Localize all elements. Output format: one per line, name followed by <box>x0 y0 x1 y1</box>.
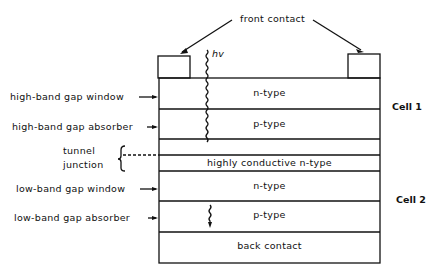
layer-p-type-top: p-type <box>159 118 380 129</box>
label-high-window: high-band gap window <box>10 91 124 102</box>
photon-label: hv <box>212 48 224 59</box>
label-tunnel: tunnel <box>63 145 95 156</box>
label-cell-2: Cell 2 <box>396 194 426 205</box>
label-low-absorber: low-band gap absorber <box>14 212 130 223</box>
diagram-lines <box>0 0 437 276</box>
layer-p-type-bottom: p-type <box>159 209 380 220</box>
label-low-window: low-band gap window <box>16 183 125 194</box>
layer-n-type-top: n-type <box>159 87 380 98</box>
front-contact-left <box>158 56 190 78</box>
label-junction: junction <box>63 159 104 170</box>
layer-highly-conductive: highly conductive n-type <box>159 157 380 168</box>
front-contact-right <box>348 54 380 78</box>
layer-n-type-bottom: n-type <box>159 180 380 191</box>
layer-back-contact: back contact <box>159 240 380 251</box>
front-contact-label: front contact <box>240 13 305 24</box>
label-cell-1: Cell 1 <box>392 101 422 112</box>
label-high-absorber: high-band gap absorber <box>12 121 133 132</box>
